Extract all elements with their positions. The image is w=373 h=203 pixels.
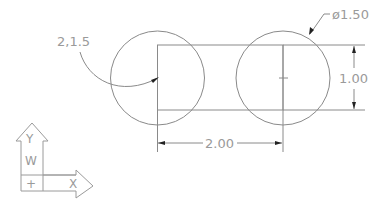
ucs-x-label: X <box>69 177 77 191</box>
rectangle[interactable] <box>158 45 284 110</box>
ucs-w-label: W <box>25 154 37 168</box>
ucs-y-label: Y <box>25 132 34 146</box>
ucs-origin-symbol: + <box>26 177 36 191</box>
width-dimension-text: 2.00 <box>205 136 234 151</box>
height-dimension-text: 1.00 <box>339 71 368 86</box>
diameter-arrow-icon <box>309 27 314 35</box>
diameter-label: ø1.50 <box>332 7 369 22</box>
drawing-canvas[interactable]: 1.00 2.00 2,1.5 ø1.50 Y W + X <box>0 0 373 203</box>
ucs-icon[interactable]: Y W + X <box>16 123 93 198</box>
height-arrow-bottom-icon <box>352 102 356 109</box>
coordinate-label: 2,1.5 <box>57 34 90 49</box>
coordinate-leader <box>80 52 158 86</box>
width-arrow-left-icon <box>158 141 165 145</box>
height-arrow-top-icon <box>352 46 356 53</box>
width-arrow-right-icon <box>275 141 282 145</box>
